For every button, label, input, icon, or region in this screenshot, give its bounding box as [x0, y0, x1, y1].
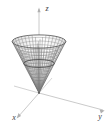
y-axis-line — [39, 93, 103, 110]
z-axis-arrowhead — [37, 8, 40, 13]
x-axis-line — [18, 93, 39, 117]
cone-surface — [12, 34, 66, 94]
x-axis-label: x — [11, 113, 16, 122]
figure-container: z y x — [0, 0, 109, 127]
cone-figure-svg: z y x — [0, 0, 109, 127]
cone-apex-point — [38, 92, 40, 94]
y-axis-label: y — [97, 112, 102, 121]
z-axis-label: z — [44, 4, 49, 13]
y-axis-negative-stub — [14, 86, 39, 93]
